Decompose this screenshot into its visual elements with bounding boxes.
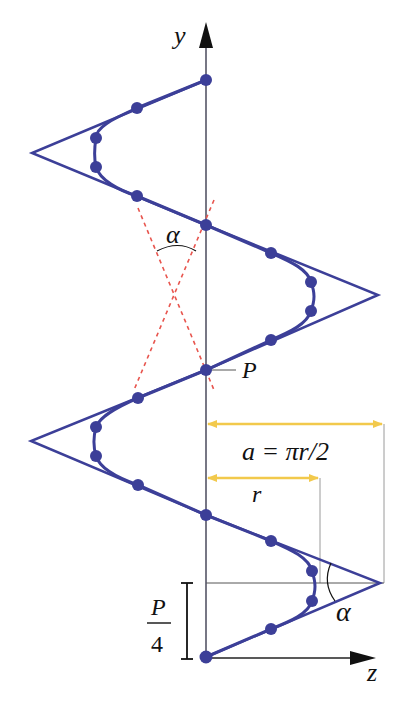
helix-diagram: y z α α P a = πr/2 r P 4	[0, 0, 407, 714]
quarter-pitch-numerator: P	[150, 594, 166, 620]
y-axis-arrowhead-icon	[199, 22, 213, 48]
alpha-bottom-arc	[327, 563, 335, 601]
alpha-top-label: α	[166, 220, 181, 249]
alpha-bottom-label: α	[336, 596, 352, 627]
y-axis	[199, 22, 213, 660]
radius-label: r	[252, 481, 262, 507]
amplitude-formula-label: a = πr/2	[242, 437, 329, 466]
helix-sample-points	[90, 74, 318, 664]
y-axis-label: y	[171, 21, 186, 50]
z-axis	[206, 651, 376, 665]
z-axis-label: z	[366, 658, 377, 687]
pitch-point-label: P	[241, 357, 257, 383]
quarter-pitch-denominator: 4	[151, 631, 163, 657]
